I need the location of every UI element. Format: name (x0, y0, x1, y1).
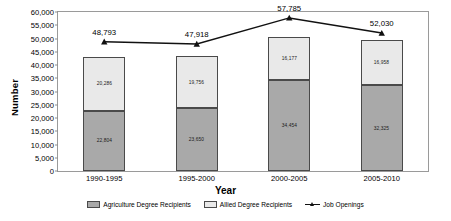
y-axis-tick-label: 5,000 (35, 153, 54, 162)
y-axis-tick-label: 35,000 (31, 74, 54, 83)
bar-segment-allied: 16,177 (268, 37, 310, 80)
legend-swatch-icon (87, 201, 100, 208)
y-axis-tick-label: 45,000 (31, 47, 54, 56)
x-axis-tick-label: 1990-1995 (86, 174, 122, 183)
y-axis-tick-label: 60,000 (31, 8, 54, 17)
y-axis-tick-label: 15,000 (31, 127, 54, 136)
bar-segment-value: 22,804 (97, 138, 112, 143)
y-axis-title: Number (9, 63, 20, 133)
bar-segment-value: 16,958 (374, 60, 389, 65)
bar-segment-value: 20,286 (97, 81, 112, 86)
bar-segment-agriculture: 22,804 (83, 111, 125, 171)
legend-swatch-icon (204, 201, 217, 208)
bar-segment-value: 16,177 (282, 56, 297, 61)
y-axis-tick-label: 50,000 (31, 34, 54, 43)
y-axis-tick-label: 30,000 (31, 87, 54, 96)
x-axis-title: Year (0, 185, 451, 196)
y-axis-tick-label: 20,000 (31, 114, 54, 123)
line-point-label: 57,785 (277, 4, 301, 13)
line-point-label: 47,918 (185, 30, 209, 39)
bar-segment-allied: 19,756 (176, 56, 218, 108)
legend-label: Allied Degree Recipients (220, 201, 292, 208)
y-axis-tick-label: 10,000 (31, 140, 54, 149)
plot-area: 05,00010,00015,00020,00025,00030,00035,0… (57, 11, 429, 172)
bar-segment-agriculture: 32,325 (361, 85, 403, 171)
bar-segment-value: 34,454 (282, 123, 297, 128)
bar-segment-allied: 16,958 (361, 40, 403, 85)
y-axis-tick-label: 0 (50, 167, 54, 176)
legend-item[interactable]: Agriculture Degree Recipients (87, 201, 191, 208)
bar-segment-value: 32,325 (374, 126, 389, 131)
x-axis-tick-label: 1995-2000 (179, 174, 215, 183)
bar-segment-agriculture: 34,454 (268, 80, 310, 171)
legend-label: Job Openings (323, 201, 364, 208)
x-axis-tick-label: 2000-2005 (271, 174, 307, 183)
y-axis-tick-label: 40,000 (31, 61, 54, 70)
legend-label: Agriculture Degree Recipients (103, 201, 191, 208)
chart-legend: Agriculture Degree RecipientsAllied Degr… (0, 201, 451, 208)
line-point-label: 52,030 (370, 19, 394, 28)
line-point-label: 48,793 (92, 28, 116, 37)
y-axis-tick-label: 55,000 (31, 21, 54, 30)
legend-item[interactable]: Allied Degree Recipients (204, 201, 292, 208)
y-axis-tick-label: 25,000 (31, 100, 54, 109)
chart-container: Number 05,00010,00015,00020,00025,00030,… (0, 0, 451, 221)
legend-item[interactable]: Job Openings (305, 201, 364, 208)
bar-segment-agriculture: 23,650 (176, 108, 218, 171)
bar-segment-allied: 20,286 (83, 57, 125, 111)
x-axis-tick-label: 2005-2010 (364, 174, 400, 183)
bar-segment-value: 19,756 (189, 80, 204, 85)
line-marker-icon (305, 201, 320, 208)
bar-segment-value: 23,650 (189, 137, 204, 142)
